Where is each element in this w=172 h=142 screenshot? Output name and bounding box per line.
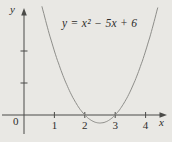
x-tick-label: 4: [143, 119, 149, 131]
x-tick-label: 1: [52, 119, 58, 131]
origin-label: 0: [13, 116, 19, 127]
x-tick-label: 3: [112, 119, 118, 131]
x-tick-label: 2: [82, 119, 88, 131]
y-axis-arrowhead-icon: [21, 8, 27, 16]
parabola-figure: 1234 y = x² − 5x + 6 y x 0: [0, 0, 172, 142]
x-axis-label: x: [159, 117, 164, 128]
y-axis-label: y: [10, 4, 15, 15]
equation-label: y = x² − 5x + 6: [62, 17, 137, 29]
